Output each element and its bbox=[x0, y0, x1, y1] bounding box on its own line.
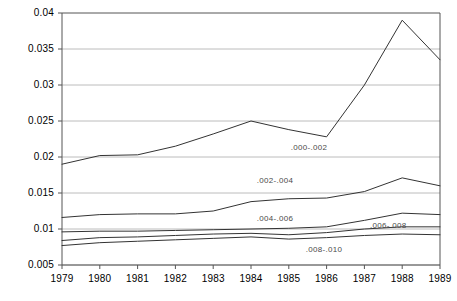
x-axis-tick-label: 1979 bbox=[42, 273, 82, 284]
x-axis-tick-label: 1982 bbox=[155, 273, 195, 284]
x-axis-tick-label: 1986 bbox=[307, 273, 347, 284]
y-axis-tick-label: 0.015 bbox=[0, 187, 54, 198]
x-axis-tick-label: 1988 bbox=[382, 273, 422, 284]
series-line-5 bbox=[62, 234, 440, 246]
y-axis-tick-label: 0.04 bbox=[0, 7, 54, 18]
x-axis-tick-label: 1980 bbox=[80, 273, 120, 284]
y-axis-tick-label: 0.025 bbox=[0, 115, 54, 126]
chart-canvas bbox=[0, 0, 457, 301]
x-axis-tick-label: 1983 bbox=[193, 273, 233, 284]
y-axis-tick-label: 0.01 bbox=[0, 223, 54, 234]
x-axis-tick-label: 1985 bbox=[269, 273, 309, 284]
series-label-2: .002-.004 bbox=[257, 176, 294, 185]
series-label-3: .004-.006 bbox=[257, 214, 294, 223]
y-axis-tick-label: 0.005 bbox=[0, 259, 54, 270]
series-line-2 bbox=[62, 178, 440, 218]
x-axis-tick-label: 1987 bbox=[344, 273, 384, 284]
x-axis-tick-label: 1984 bbox=[231, 273, 271, 284]
y-axis-tick-label: 0.02 bbox=[0, 151, 54, 162]
y-axis-tick-label: 0.035 bbox=[0, 43, 54, 54]
series-line-1 bbox=[62, 20, 440, 164]
series-label-5: .008-.010 bbox=[306, 245, 343, 254]
series-label-1: .000-.002 bbox=[291, 143, 328, 152]
x-axis-tick-label: 1981 bbox=[118, 273, 158, 284]
line-chart: 0.0050.010.0150.020.0250.030.0350.041979… bbox=[0, 0, 457, 301]
y-axis-tick-label: 0.03 bbox=[0, 79, 54, 90]
x-axis-tick-label: 1989 bbox=[420, 273, 457, 284]
series-label-4: .006-.008 bbox=[370, 221, 407, 230]
